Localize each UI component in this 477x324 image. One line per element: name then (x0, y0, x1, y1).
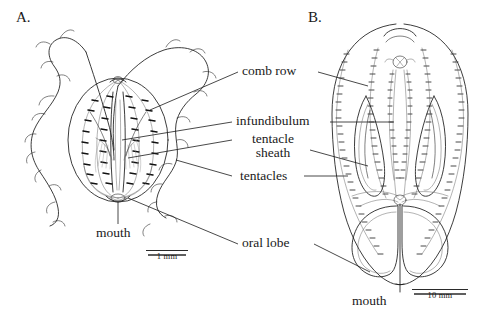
panel-a-right-tentacle (118, 40, 216, 236)
illustration-svg: .ln{fill:none;stroke:#1a1a1a;stroke-widt… (0, 0, 477, 324)
callout-oral-lobe: oral lobe (242, 236, 290, 250)
callout-mouth-panel-b: mouth (352, 294, 387, 308)
panel-label-a: A. (16, 10, 31, 26)
scale-bar-b-label: 10 mm (412, 291, 468, 300)
callout-comb-row: comb row (242, 64, 296, 78)
panel-b-body (332, 24, 468, 292)
scale-bar-b: 10 mm (412, 289, 468, 300)
callout-tentacle-sheath-line1: tentacle (242, 132, 304, 146)
scale-bar-a: 1 mm (146, 250, 188, 261)
scale-bar-a-label: 1 mm (146, 252, 188, 261)
callout-infundibulum: infundibulum (236, 114, 310, 128)
callout-tentacles: tentacles (240, 169, 287, 183)
panel-a-left-tentacle (25, 30, 86, 226)
callout-mouth-panel-a: mouth (96, 226, 131, 240)
callout-tentacle-sheath-line2: sheath (242, 146, 304, 160)
panel-a-body (68, 52, 168, 202)
panel-label-b: B. (308, 10, 322, 26)
callout-tentacle-sheath: tentacle sheath (242, 132, 304, 160)
figure-canvas: .ln{fill:none;stroke:#1a1a1a;stroke-widt… (0, 0, 477, 324)
